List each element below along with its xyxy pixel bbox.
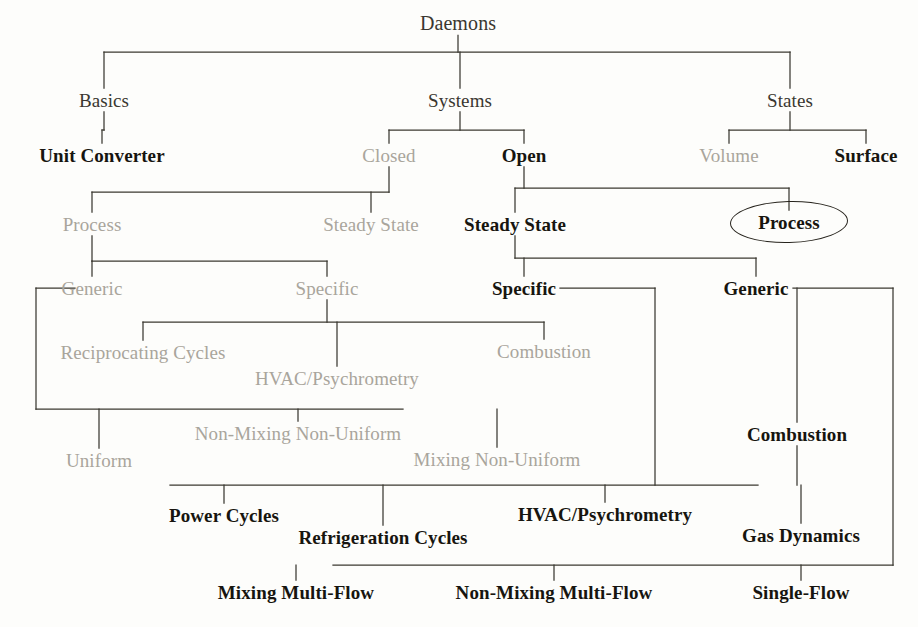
tree-node-gas-dynamics[interactable]: Gas Dynamics — [742, 526, 860, 545]
tree-node-uniform[interactable]: Uniform — [66, 451, 132, 470]
tree-node-power-cycles[interactable]: Power Cycles — [169, 506, 279, 525]
tree-node-single-flow[interactable]: Single-Flow — [752, 583, 849, 602]
tree-node-open-steady[interactable]: Steady State — [464, 215, 566, 234]
tree-node-os-generic[interactable]: Generic — [723, 279, 788, 298]
tree-node-open-process[interactable]: Process — [758, 213, 820, 232]
tree-node-closed[interactable]: Closed — [362, 146, 415, 165]
tree-node-combustion-og[interactable]: Combustion — [747, 425, 847, 444]
tree-node-surface[interactable]: Surface — [835, 146, 898, 165]
tree-node-cp-specific[interactable]: Specific — [295, 279, 358, 298]
tree-node-closed-process[interactable]: Process — [63, 215, 122, 234]
tree-node-daemons[interactable]: Daemons — [420, 13, 496, 33]
tree-node-volume[interactable]: Volume — [699, 146, 758, 165]
daemons-tree-diagram: DaemonsBasicsSystemsStatesUnit Converter… — [0, 0, 918, 627]
tree-node-systems[interactable]: Systems — [428, 91, 492, 110]
tree-node-nonmix-multi[interactable]: Non-Mixing Multi-Flow — [456, 583, 653, 602]
tree-node-mix-multiflow[interactable]: Mixing Multi-Flow — [218, 583, 374, 602]
tree-node-cp-generic[interactable]: Generic — [62, 279, 123, 298]
tree-node-states[interactable]: States — [767, 91, 813, 110]
tree-node-hvac-open[interactable]: HVAC/Psychrometry — [518, 505, 692, 524]
tree-node-refrig-cycles[interactable]: Refrigeration Cycles — [298, 528, 467, 547]
tree-node-recip-cycles[interactable]: Reciprocating Cycles — [60, 343, 225, 362]
tree-node-hvac-closed[interactable]: HVAC/Psychrometry — [255, 369, 419, 388]
tree-node-basics[interactable]: Basics — [79, 91, 129, 110]
tree-node-unit-converter[interactable]: Unit Converter — [39, 146, 164, 165]
tree-node-open[interactable]: Open — [502, 146, 547, 165]
tree-node-combustion-cs[interactable]: Combustion — [497, 342, 591, 361]
tree-node-os-specific[interactable]: Specific — [492, 279, 556, 298]
tree-node-closed-steady[interactable]: Steady State — [323, 215, 419, 234]
tree-node-mix-nonuni[interactable]: Mixing Non-Uniform — [414, 450, 581, 469]
tree-node-nonmix-nonuni[interactable]: Non-Mixing Non-Uniform — [195, 424, 401, 443]
